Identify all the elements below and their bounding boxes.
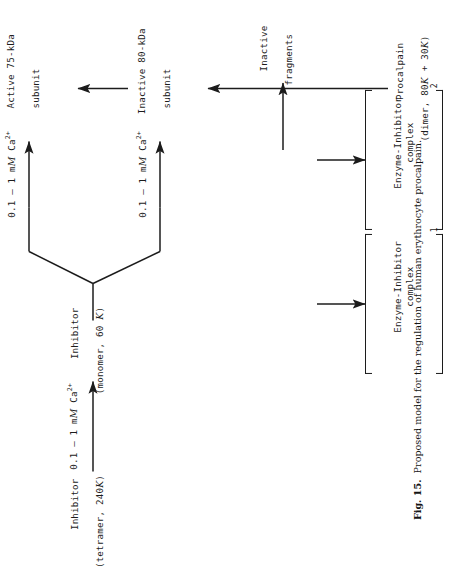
complex2-subscript: 2 <box>431 84 439 89</box>
bracket-right-complex1: 1 <box>436 234 443 374</box>
bracket-left-complex2 <box>365 90 372 230</box>
inactive-fragments-line1: Inactive <box>258 26 269 72</box>
bracket-left-complex1 <box>365 234 372 374</box>
bracket-right-complex2: 2 <box>436 90 443 230</box>
figure-caption: Fig. 15. Proposed model for the regulati… <box>412 140 424 520</box>
complex1-line1: Enzyme-Inhibitor <box>392 241 403 333</box>
figure-caption-text <box>412 473 423 479</box>
inactive-fragments-line2: fragments <box>283 26 296 95</box>
complex2-line1: Enzyme-Inhibitor <box>392 97 403 189</box>
complex1-text: Enzyme-Inhibitor complex <box>372 234 436 374</box>
complex2-text: Enzyme-Inhibitor complex <box>372 90 436 230</box>
node-enzyme-inhibitor-complex-2: Enzyme-Inhibitor complex 2 <box>365 90 443 230</box>
complex1-subscript: 1 <box>431 228 439 233</box>
node-inactive-fragments: Inactive fragments <box>246 26 321 95</box>
figure-number: Fig. 15. <box>412 479 423 520</box>
node-enzyme-inhibitor-complex-1: Enzyme-Inhibitor complex 1 <box>365 234 443 374</box>
screen-overlay: Inactive fragments Enzyme-Inhibitor comp… <box>0 0 450 573</box>
